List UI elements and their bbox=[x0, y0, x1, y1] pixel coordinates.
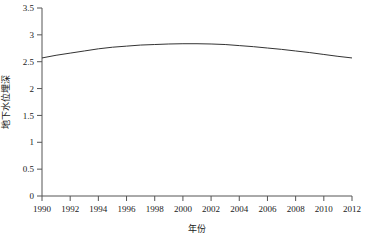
x-tick-label: 2008 bbox=[287, 204, 306, 214]
x-tick-label: 2000 bbox=[174, 204, 193, 214]
x-tick-label: 2006 bbox=[258, 204, 277, 214]
x-axis-title: 年份 bbox=[188, 223, 206, 234]
y-tick-label: 3.5 bbox=[23, 3, 35, 13]
y-tick-label: 0 bbox=[30, 191, 35, 201]
y-tick-label: 2.5 bbox=[23, 57, 35, 67]
x-tick-label: 2010 bbox=[315, 204, 334, 214]
x-tick-label: 1996 bbox=[118, 204, 137, 214]
x-tick-label: 2002 bbox=[202, 204, 220, 214]
x-tick-label: 1990 bbox=[33, 204, 52, 214]
x-tick-label: 2012 bbox=[343, 204, 361, 214]
x-tick-label: 1992 bbox=[61, 204, 79, 214]
chart-canvas: 00.511.522.533.5 19901992199419961998200… bbox=[0, 0, 369, 243]
x-tick-label: 1994 bbox=[89, 204, 108, 214]
trend-line bbox=[42, 44, 352, 58]
x-axis-ticks: 1990199219941996199820002002200420062008… bbox=[33, 196, 361, 214]
y-tick-label: 0.5 bbox=[23, 164, 35, 174]
x-tick-label: 2004 bbox=[230, 204, 249, 214]
y-tick-label: 1 bbox=[30, 137, 35, 147]
y-tick-label: 3 bbox=[30, 30, 35, 40]
y-tick-label: 2 bbox=[30, 84, 35, 94]
y-tick-label: 1.5 bbox=[23, 111, 35, 121]
y-axis-ticks: 00.511.522.533.5 bbox=[23, 3, 42, 201]
x-tick-label: 1998 bbox=[146, 204, 165, 214]
data-point-markers bbox=[42, 0, 349, 83]
groundwater-depth-chart: 00.511.522.533.5 19901992199419961998200… bbox=[0, 0, 369, 243]
